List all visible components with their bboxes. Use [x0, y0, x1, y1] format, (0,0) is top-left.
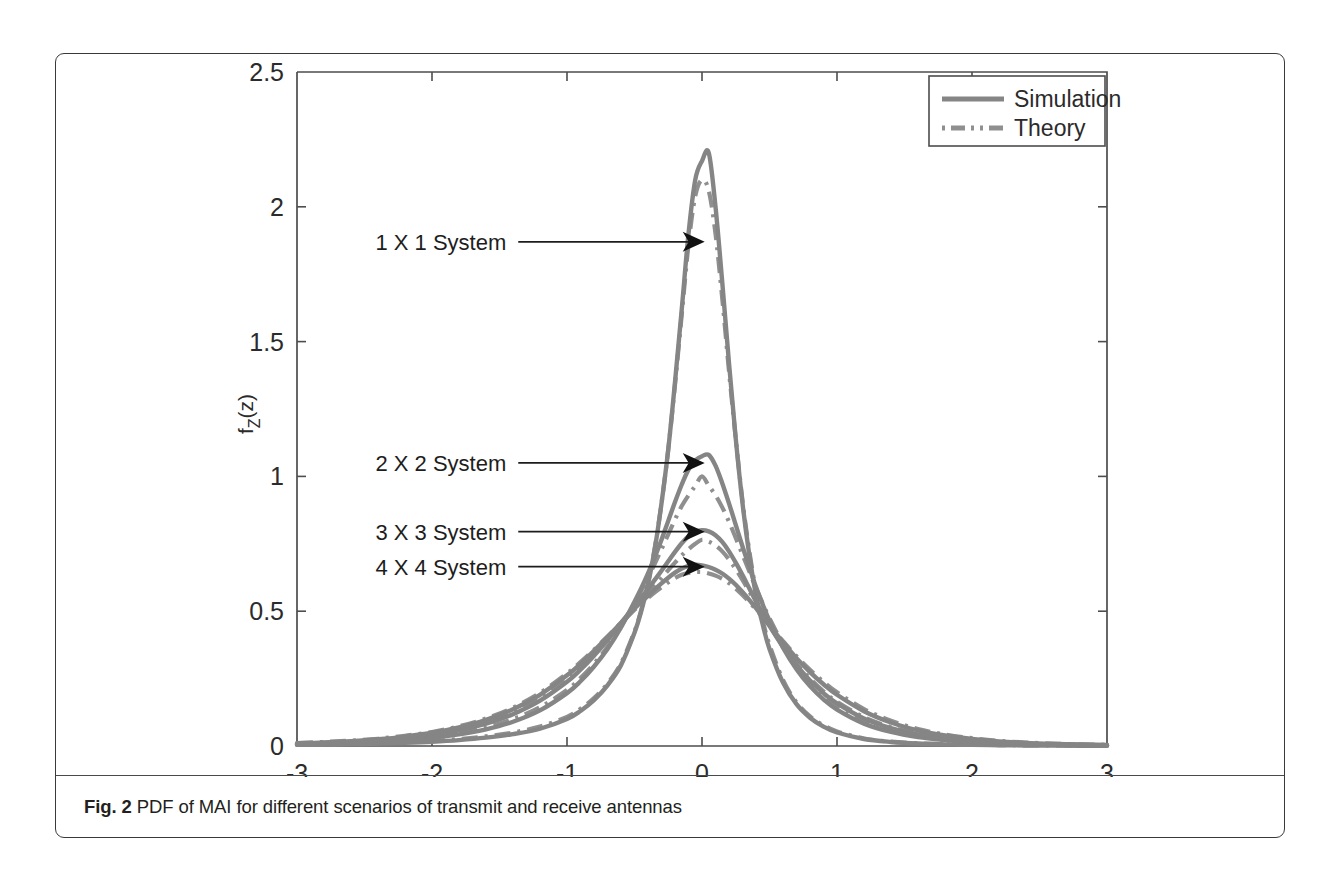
- y-axis-title: fZ(z): [234, 394, 263, 434]
- legend-label-theory: Theory: [1014, 115, 1086, 141]
- annotation-label-2: 2 X 2 System: [375, 451, 506, 476]
- y-tick-label: 0.5: [249, 597, 284, 625]
- plot-area: -3-2-10123 00.511.522.5 z fZ(z) 1 X 1 Sy…: [56, 54, 1286, 777]
- figure-container: -3-2-10123 00.511.522.5 z fZ(z) 1 X 1 Sy…: [55, 53, 1285, 838]
- theory-curve-2-x-2-system: [297, 476, 1107, 745]
- theory-curve-4-x-4-system: [297, 572, 1107, 745]
- annotation-label-4: 4 X 4 System: [375, 555, 506, 580]
- simulation-curve-2-x-2-system: [297, 454, 1107, 745]
- y-axis-ticks: [297, 207, 306, 611]
- figure-caption: Fig. 2 PDF of MAI for different scenario…: [56, 796, 682, 818]
- simulation-curve-4-x-4-system: [297, 565, 1107, 745]
- y-axis-title-text: fZ(z): [234, 394, 263, 434]
- figure-caption-text: PDF of MAI for different scenarios of tr…: [132, 796, 682, 817]
- legend-label-simulation: Simulation: [1014, 86, 1121, 112]
- y-tick-label: 2.5: [249, 58, 284, 86]
- annotation-label-3: 3 X 3 System: [375, 520, 506, 545]
- chart-legend[interactable]: Simulation Theory: [929, 76, 1121, 146]
- annotation-label-1: 1 X 1 System: [375, 230, 506, 255]
- pdf-plot: -3-2-10123 00.511.522.5 z fZ(z) 1 X 1 Sy…: [56, 54, 1286, 777]
- y-tick-label: 0: [270, 732, 284, 760]
- y-tick-label: 1.5: [249, 328, 284, 356]
- figure-caption-bar: Fig. 2 PDF of MAI for different scenario…: [56, 775, 1284, 837]
- figure-number: Fig. 2: [84, 796, 132, 817]
- y-tick-label: 1: [270, 462, 284, 490]
- curve-annotations: 1 X 1 System2 X 2 System3 X 3 System4 X …: [375, 230, 704, 580]
- axes-frame: [297, 72, 1107, 746]
- y-tick-label: 2: [270, 193, 284, 221]
- x-axis-ticks-top: [432, 72, 972, 81]
- y-axis-ticks-right: [1098, 207, 1107, 611]
